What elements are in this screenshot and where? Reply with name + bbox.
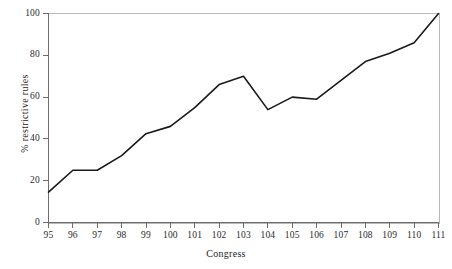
y-axis-spine — [48, 13, 49, 223]
x-tick-95 — [48, 223, 49, 228]
x-tick-98 — [121, 223, 122, 228]
x-axis-label: Congress — [0, 248, 452, 259]
x-tick-108 — [365, 223, 366, 228]
y-tick-20 — [43, 180, 48, 181]
x-tick-101 — [194, 223, 195, 228]
plot-area — [48, 13, 440, 224]
x-tick-99 — [146, 223, 147, 228]
y-tick-100 — [43, 13, 48, 14]
x-tick-96 — [72, 223, 73, 228]
x-tick-100 — [170, 223, 171, 228]
x-tick-103 — [243, 223, 244, 228]
chart-figure: 020406080100 959697989910010110210310410… — [0, 0, 452, 269]
x-tick-102 — [219, 223, 220, 228]
y-tick-60 — [43, 97, 48, 98]
y-tick-40 — [43, 138, 48, 139]
x-tick-label-111: 111 — [424, 230, 452, 240]
x-tick-105 — [292, 223, 293, 228]
x-tick-110 — [414, 223, 415, 228]
x-tick-107 — [341, 223, 342, 228]
x-tick-97 — [97, 223, 98, 228]
x-tick-109 — [389, 223, 390, 228]
y-tick-80 — [43, 55, 48, 56]
x-tick-106 — [316, 223, 317, 228]
x-tick-104 — [267, 223, 268, 228]
y-tick-label-0: 0 — [0, 218, 40, 228]
y-axis-label: % restrictive rules — [19, 44, 30, 184]
x-tick-111 — [438, 223, 439, 228]
y-tick-label-100: 100 — [0, 9, 40, 19]
